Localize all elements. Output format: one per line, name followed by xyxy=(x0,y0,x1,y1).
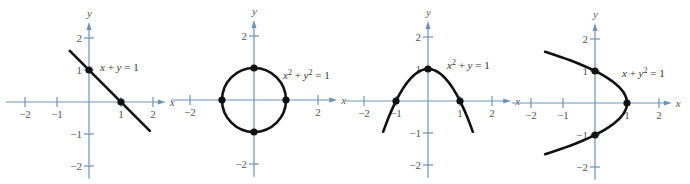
x-tick-label: 2 xyxy=(656,109,662,121)
y-axis-label: y xyxy=(425,6,431,18)
x-tick-label: −2 xyxy=(19,108,31,120)
intercept-point xyxy=(282,96,289,103)
x-arrow-icon xyxy=(664,101,672,106)
y-arrow-icon xyxy=(87,22,92,30)
y-arrow-icon xyxy=(426,21,431,29)
x-axis-label: x xyxy=(340,94,346,106)
graph-1: xy−2−11221−1−2x + y = 1 xyxy=(6,7,175,179)
x-tick-label: 2 xyxy=(315,106,321,118)
y-tick-label: 2 xyxy=(77,32,83,44)
x-tick-label: −2 xyxy=(184,106,196,118)
x-tick-label: −1 xyxy=(51,108,63,120)
y-tick-label: 2 xyxy=(583,33,589,45)
y-tick-label: −2 xyxy=(576,161,588,173)
y-tick-label: −1 xyxy=(70,128,82,140)
y-arrow-icon xyxy=(252,20,257,28)
y-tick-label: 2 xyxy=(242,30,248,42)
y-axis-label: y xyxy=(86,7,92,19)
y-arrow-icon xyxy=(593,23,598,31)
graph-4: xy−2−11221−1−2x + y2 = 1 xyxy=(512,8,681,180)
x-arrow-icon xyxy=(503,99,511,104)
intercept-point xyxy=(623,99,630,106)
x-axis-label: x xyxy=(169,96,175,108)
x-tick-label: −2 xyxy=(525,109,537,121)
x-tick-label: 1 xyxy=(457,107,463,119)
figure-graphs: xy−2−11221−1−2x + y = 1xy−222−2x2 + y2 =… xyxy=(0,0,690,184)
x-tick-label: 1 xyxy=(118,108,124,120)
intercept-point xyxy=(117,98,124,105)
x-axis-label: x xyxy=(514,95,520,107)
intercept-point xyxy=(250,128,257,135)
y-tick-label: −1 xyxy=(409,127,421,139)
intercept-point xyxy=(250,64,257,71)
y-axis-label: y xyxy=(251,5,257,17)
intercept-point xyxy=(218,96,225,103)
equation-label: x + y = 1 xyxy=(99,61,139,73)
intercept-point xyxy=(591,131,598,138)
intercept-point xyxy=(424,65,431,72)
equation-label: x2 + y = 1 xyxy=(446,58,490,72)
x-tick-label: 2 xyxy=(150,108,156,120)
equation-label: x + y2 = 1 xyxy=(621,66,665,80)
graph-3: xy−2−11221−1−2x2 + y = 1 xyxy=(345,6,520,178)
y-tick-label: −2 xyxy=(235,158,247,170)
y-tick-label: 2 xyxy=(416,31,422,43)
intercept-point xyxy=(85,66,92,73)
x-tick-label: 2 xyxy=(489,107,495,119)
y-axis-label: y xyxy=(592,8,598,20)
y-tick-label: −2 xyxy=(70,160,82,172)
y-tick-label: 1 xyxy=(77,64,83,76)
graph-2: xy−222−2x2 + y2 = 1 xyxy=(171,5,346,177)
intercept-point xyxy=(392,97,399,104)
x-arrow-icon xyxy=(158,100,166,105)
x-arrow-icon xyxy=(329,98,337,103)
x-tick-label: −2 xyxy=(358,107,370,119)
x-axis-label: x xyxy=(675,97,681,109)
equation-label: x2 + y2 = 1 xyxy=(282,68,330,82)
y-tick-label: −2 xyxy=(409,159,421,171)
intercept-point xyxy=(456,97,463,104)
intercept-point xyxy=(591,67,598,74)
x-tick-label: −1 xyxy=(557,109,569,121)
